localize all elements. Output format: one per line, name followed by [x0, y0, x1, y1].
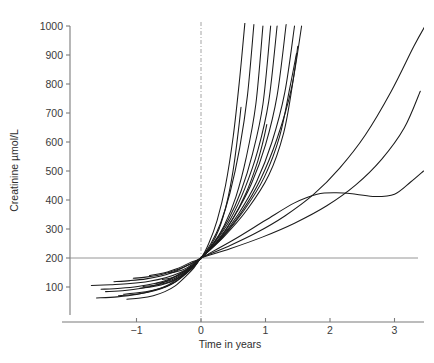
- y-tick-label: 900: [45, 49, 63, 61]
- y-tick-label: 600: [45, 136, 63, 148]
- series-line: [101, 25, 254, 290]
- y-axis-title: Creatinine µmol/L: [8, 129, 20, 212]
- y-tick-label: 500: [45, 165, 63, 177]
- y-tick-label: 1000: [40, 20, 64, 32]
- series-line: [143, 23, 427, 286]
- chart-canvas: 1002003004005006007008009001000Creatinin…: [0, 0, 434, 363]
- series-line: [127, 46, 298, 299]
- y-tick-label: 400: [45, 194, 63, 206]
- x-axis-title: Time in years: [199, 338, 262, 350]
- creatinine-trajectory-figure: 1002003004005006007008009001000Creatinin…: [0, 0, 434, 363]
- y-tick-label: 200: [45, 252, 63, 264]
- y-tick-label: 700: [45, 107, 63, 119]
- x-tick-label: 1: [263, 324, 269, 336]
- x-tick-label: 3: [392, 324, 398, 336]
- y-tick-label: 800: [45, 78, 63, 90]
- series-line: [156, 54, 297, 284]
- x-tick-label: −1: [131, 324, 143, 336]
- y-tick-label: 100: [45, 281, 63, 293]
- series-line: [124, 26, 271, 294]
- x-tick-label: 2: [327, 324, 333, 336]
- x-tick-label: 0: [198, 324, 204, 336]
- y-tick-label: 300: [45, 223, 63, 235]
